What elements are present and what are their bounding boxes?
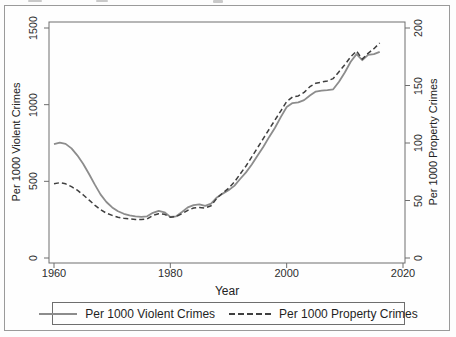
y-right-tick-label: 200 [412,19,424,37]
y-right-tick-label: 150 [412,76,424,94]
y-right-tick-label: 100 [412,134,424,152]
solid-series-line [54,52,380,217]
x-tick-label: 2020 [391,267,415,279]
x-tick-label: 2000 [274,267,298,279]
y-right-tick-label: 0 [412,255,424,261]
y-right-tick-label: 50 [412,194,424,206]
y-left-tick-label: 1000 [27,93,39,117]
solid-line-sample [39,313,77,315]
legend-item-violent: Per 1000 Violent Crimes [39,307,215,321]
legend: Per 1000 Violent Crimes Per 1000 Propert… [52,302,405,325]
crime-trends-figure: 0500100015000501001502001960198020002020… [0,0,456,337]
dashed-series-line [54,43,380,220]
left-axis-title: Per 1000 Violent Crimes [10,82,22,201]
x-tick-label: 1980 [158,267,182,279]
x-axis-title: Year [215,284,239,298]
y-left-tick-label: 1500 [27,16,39,40]
legend-label-property: Per 1000 Property Crimes [279,307,418,321]
y-left-tick-label: 0 [27,255,39,261]
legend-label-violent: Per 1000 Violent Crimes [85,307,215,321]
y-left-tick-label: 500 [27,172,39,190]
right-axis-title: Per 1000 Property Crimes [427,78,439,205]
dashed-line-sample [229,313,271,315]
x-tick-label: 1960 [42,267,66,279]
legend-item-property: Per 1000 Property Crimes [229,307,418,321]
